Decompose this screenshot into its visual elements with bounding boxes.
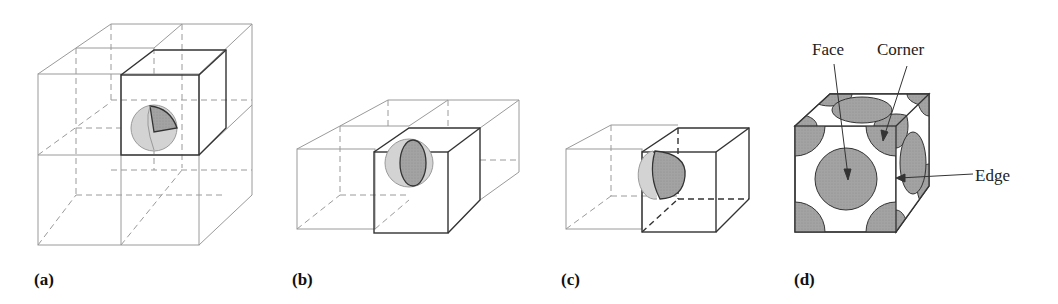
panel-label-a: (a) [34, 270, 54, 290]
panel-b-edge-atom [385, 139, 433, 187]
panel-c-face-atom [638, 151, 685, 199]
corner-annotation: Corner [877, 40, 924, 60]
panel-label-b: (b) [292, 270, 313, 290]
panel-label-d: (d) [794, 270, 815, 290]
edge-annotation: Edge [975, 166, 1010, 186]
face-annotation: Face [812, 40, 844, 60]
panel-a-corner-atom [131, 105, 177, 151]
panel-label-c: (c) [561, 270, 580, 290]
panel-d-fcc-cell [765, 72, 951, 262]
panel-b-highlight-cell [374, 128, 480, 233]
